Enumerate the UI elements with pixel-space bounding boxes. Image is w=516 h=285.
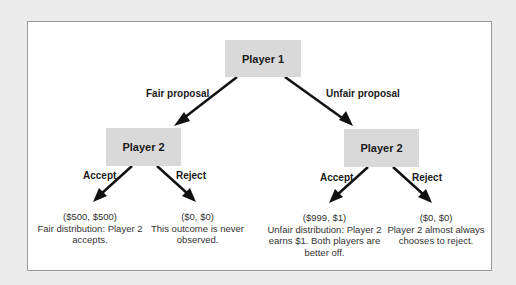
edge-label-reject: Reject	[412, 172, 442, 183]
node-label: Player 2	[360, 142, 402, 154]
outcome-fair-reject: ($0, $0) This outcome is never observed.	[150, 211, 245, 246]
node-player-1: Player 1	[225, 40, 301, 77]
node-player-2-unfair: Player 2	[344, 129, 419, 167]
outcome-description: Fair distribution: Player 2 accepts.	[37, 223, 142, 246]
payoff: ($0, $0)	[387, 212, 485, 224]
arrow-fair-proposal	[180, 77, 237, 121]
payoff: ($999, $1)	[262, 212, 387, 224]
edge-label-reject: Reject	[176, 170, 206, 181]
payoff: ($0, $0)	[150, 211, 245, 223]
edge-label-accept: Accept	[320, 172, 353, 183]
outcome-fair-accept: ($500, $500) Fair distribution: Player 2…	[30, 211, 150, 246]
outcome-unfair-accept: ($999, $1) Unfair distribution: Player 2…	[262, 212, 387, 258]
outcome-unfair-reject: ($0, $0) Player 2 almost always chooses …	[387, 212, 485, 247]
node-label: Player 1	[242, 53, 284, 65]
outcome-description: Player 2 almost always chooses to reject…	[387, 224, 484, 247]
payoff: ($500, $500)	[30, 211, 150, 223]
node-label: Player 2	[122, 141, 164, 153]
arrowhead-icon	[339, 111, 353, 126]
edge-label-fair-proposal: Fair proposal	[146, 88, 209, 99]
edge-label-unfair-proposal: Unfair proposal	[326, 88, 400, 99]
node-player-2-fair: Player 2	[106, 128, 181, 166]
outcome-description: This outcome is never observed.	[151, 223, 244, 246]
outcome-description: Unfair distribution: Player 2 earns $1. …	[267, 224, 381, 258]
edge-label-accept: Accept	[83, 170, 116, 181]
